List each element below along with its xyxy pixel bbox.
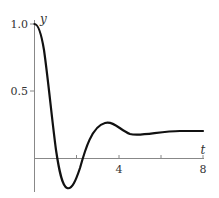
y-tick-label-1: 1.0 — [11, 18, 29, 31]
y-axis-label: y — [39, 12, 47, 26]
chart-svg: 1.0 0.5 4 8 y t — [0, 0, 219, 198]
y-tick-label-05: 0.5 — [11, 85, 29, 98]
x-tick-label-4: 4 — [116, 163, 123, 176]
x-axis-label: t — [201, 143, 206, 157]
x-tick-label-8: 8 — [200, 163, 207, 176]
damped-oscillation-chart: 1.0 0.5 4 8 y t — [0, 0, 219, 198]
